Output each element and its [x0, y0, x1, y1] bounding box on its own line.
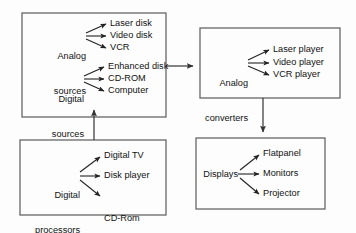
digital-sources-label: Digital sources — [28, 71, 84, 164]
leaf-laser-disk: Laser disk — [110, 18, 152, 30]
analog-converters-label: Analog converters — [186, 55, 248, 148]
leaf-cd-rom-drive-line1: CD-Rom — [104, 213, 140, 225]
digital-processors-line2: processors — [18, 225, 80, 233]
leaf-cd-rom: CD-ROM — [108, 73, 146, 85]
leaf-laser-player: Laser player — [273, 44, 324, 56]
leaf-enhanced-disk: Enhanced disk — [108, 61, 168, 73]
leaf-computer: Computer — [108, 85, 148, 97]
analog-sources-line1: Analog — [30, 51, 86, 63]
leaf-video-disk: Video disk — [110, 30, 152, 42]
leaf-vcr-player: VCR player — [273, 69, 320, 81]
displays-label: Displays — [200, 169, 238, 181]
leaf-digital-tv: Digital TV — [104, 150, 144, 162]
leaf-video-player: Video player — [273, 57, 324, 69]
digital-processors-line1: Digital — [18, 190, 80, 202]
leaf-disk-player: Disk player — [104, 170, 149, 182]
leaf-flatpanel: Flatpanel — [263, 148, 301, 160]
leaf-vcr: VCR — [110, 42, 129, 54]
leaf-monitors: Monitors — [263, 168, 298, 180]
digital-processors-label: Digital processors — [18, 167, 80, 233]
leaf-cd-rom-drive: CD-Rom drive — [104, 190, 140, 233]
analog-converters-line2: converters — [186, 113, 248, 125]
diagram-canvas: Analog sources Laser disk Video disk VCR… — [0, 0, 356, 233]
digital-sources-line1: Digital — [28, 94, 84, 106]
analog-converters-line1: Analog — [186, 78, 248, 90]
leaf-projector: Projector — [263, 188, 300, 200]
digital-sources-line2: sources — [28, 129, 84, 141]
